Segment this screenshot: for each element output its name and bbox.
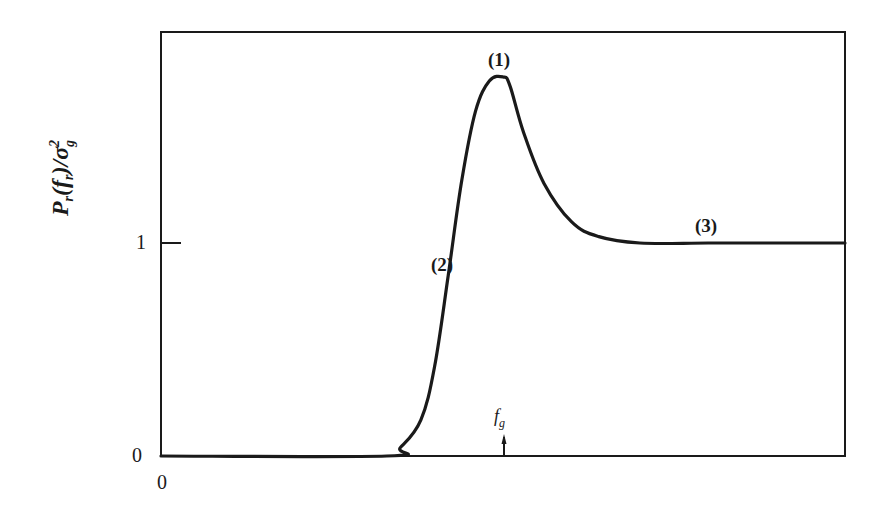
annotation-plateau: (3) [695, 215, 717, 237]
x-tick-label-0: 0 [157, 471, 167, 494]
fg-arrow-icon [502, 434, 507, 455]
fg-label: fg [494, 406, 505, 431]
figure: Pr(fr)/σg2 1 0 0 (1) (2) (3) fg [0, 0, 891, 519]
y-tick-label-0: 0 [132, 444, 142, 467]
annotation-rise: (2) [431, 254, 453, 276]
response-curve [161, 76, 845, 456]
y-tick-label-1: 1 [136, 231, 146, 254]
y-axis-label: Pr(fr)/σg2 [47, 140, 78, 216]
annotation-peak: (1) [488, 49, 510, 71]
